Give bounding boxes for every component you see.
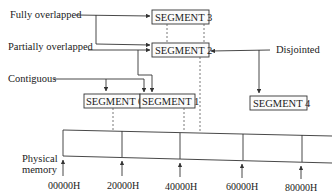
segment-1-box: SEGMENT 1	[140, 94, 199, 108]
segment-3-box: SEGMENT 3	[152, 10, 212, 24]
address-label-1: 20000H	[107, 180, 139, 191]
physical-memory-bar	[63, 130, 332, 163]
svg-text:SEGMENT 1: SEGMENT 1	[142, 96, 199, 107]
label-contiguous: Contiguous	[8, 73, 56, 84]
partially-overlapped-arrows	[88, 50, 152, 92]
svg-text:SEGMENT 3: SEGMENT 3	[155, 12, 212, 23]
segment-2-box: SEGMENT 2	[152, 43, 212, 57]
svg-text:SEGMENT 2: SEGMENT 2	[155, 45, 212, 56]
address-label-3: 60000H	[226, 181, 258, 192]
svg-text:SEGMENT 0: SEGMENT 0	[86, 96, 143, 107]
segment-0-box: SEGMENT 0	[84, 94, 143, 108]
label-physical-memory-1: Physical	[22, 153, 58, 164]
svg-text:SEGMENT 4: SEGMENT 4	[253, 98, 311, 109]
memory-segmentation-diagram: Fully overlapped Partially overlapped Co…	[0, 0, 332, 195]
address-label-0: 00000H	[48, 180, 80, 191]
address-label-2: 40000H	[165, 181, 197, 192]
address-arrows	[63, 160, 301, 179]
label-disjointed: Disjointed	[276, 44, 320, 55]
segment-4-box: SEGMENT 4	[250, 96, 311, 110]
label-partially-overlapped: Partially overlapped	[8, 41, 94, 52]
address-label-4: 80000H	[285, 182, 317, 193]
disjointed-arrows	[211, 50, 270, 93]
label-fully-overlapped: Fully overlapped	[10, 9, 82, 20]
label-physical-memory-2: memory	[22, 164, 58, 175]
contiguous-arrows	[54, 79, 144, 92]
segment-boundary-dashes	[113, 24, 204, 132]
